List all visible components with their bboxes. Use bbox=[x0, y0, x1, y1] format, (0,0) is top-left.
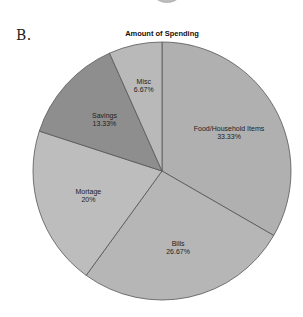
slice-value-label: 13.33% bbox=[93, 120, 117, 127]
pie-slices bbox=[33, 42, 291, 300]
slice-value-label: 6.67% bbox=[134, 86, 154, 93]
slice-value-label: 33.33% bbox=[217, 133, 241, 140]
slice-value-label: 26.67% bbox=[166, 248, 190, 255]
slice-value-label: 20% bbox=[81, 196, 95, 203]
slice-category-label: Mortage bbox=[76, 188, 102, 196]
slice-category-label: Savings bbox=[92, 112, 117, 120]
pie-chart: Amount of Spending Food/Household Items3… bbox=[0, 0, 303, 317]
slice-category-label: Food/Household Items bbox=[194, 125, 265, 132]
slice-category-label: Bills bbox=[172, 240, 185, 247]
chart-title: Amount of Spending bbox=[125, 29, 199, 38]
slice-category-label: Misc bbox=[137, 78, 152, 85]
